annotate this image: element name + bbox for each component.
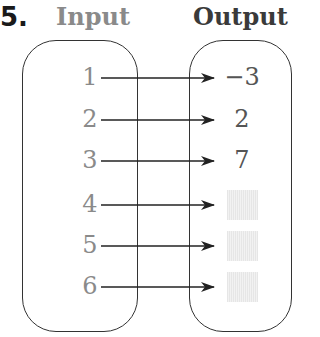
answer-blank[interactable] bbox=[227, 231, 258, 261]
input-value: 6 bbox=[75, 271, 105, 301]
answer-blank[interactable] bbox=[227, 272, 258, 302]
input-value: 5 bbox=[75, 230, 105, 260]
input-value: 1 bbox=[75, 62, 105, 92]
input-value: 2 bbox=[75, 104, 105, 134]
output-value: 2 bbox=[222, 104, 262, 134]
answer-blank[interactable] bbox=[227, 190, 258, 220]
input-value: 3 bbox=[75, 145, 105, 175]
input-value: 4 bbox=[75, 189, 105, 219]
output-value: −3 bbox=[222, 62, 262, 92]
output-value: 7 bbox=[222, 145, 262, 175]
